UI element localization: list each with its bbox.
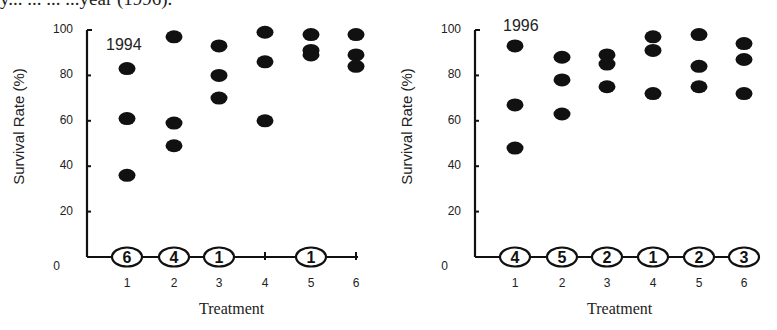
data-point (257, 55, 274, 68)
svg-text:1: 1 (307, 249, 316, 266)
svg-text:3: 3 (740, 249, 749, 266)
data-point (166, 30, 183, 43)
x-tick-label: 1 (505, 276, 525, 290)
zero-count-marker: 3 (729, 248, 759, 267)
zero-count-marker: 2 (684, 248, 714, 267)
y-tick-label: 60 (43, 113, 73, 127)
data-point (554, 73, 571, 86)
data-point (645, 30, 662, 43)
svg-text:5: 5 (558, 249, 567, 266)
data-point (166, 117, 183, 130)
data-point (645, 87, 662, 100)
y-tick-label: 100 (43, 22, 73, 36)
chart-year-title: 1996 (503, 17, 539, 35)
data-point (691, 60, 708, 73)
zero-count-marker: 6 (112, 248, 142, 267)
data-point (507, 39, 524, 52)
x-tick-label: 4 (255, 276, 275, 290)
data-point (691, 28, 708, 41)
svg-text:1: 1 (215, 249, 224, 266)
y-tick-label: 20 (431, 204, 461, 218)
zero-count-marker: 1 (638, 248, 668, 267)
data-point (507, 98, 524, 111)
y-tick-label: 100 (431, 22, 461, 36)
y-tick-label: 0 (30, 259, 60, 273)
y-tick-label: 80 (431, 67, 461, 81)
x-tick-label: 5 (689, 276, 709, 290)
data-point (348, 60, 365, 73)
svg-text:1: 1 (649, 249, 658, 266)
zero-count-marker: 4 (159, 248, 189, 267)
data-point (211, 39, 228, 52)
data-point (303, 28, 320, 41)
y-tick-label: 20 (43, 204, 73, 218)
data-point (736, 37, 753, 50)
data-point (119, 112, 136, 125)
zero-count-marker: 4 (500, 248, 530, 267)
zero-count-marker: 1 (296, 248, 326, 267)
zero-count-marker: 5 (547, 248, 577, 267)
x-tick-label: 3 (209, 276, 229, 290)
data-point (211, 69, 228, 82)
chart-year-title: 1994 (106, 36, 142, 54)
svg-text:6: 6 (123, 249, 132, 266)
chart-1994: 6411020406080100123456Survival Rate (%)T… (0, 0, 388, 330)
data-point (211, 92, 228, 105)
data-point (119, 62, 136, 75)
x-tick-label: 6 (346, 276, 366, 290)
data-point (119, 169, 136, 182)
data-point (554, 51, 571, 64)
x-tick-label: 6 (734, 276, 754, 290)
y-axis-label: Survival Rate (%) (10, 57, 27, 197)
x-tick-label: 4 (643, 276, 663, 290)
data-point (166, 139, 183, 152)
y-tick-label: 80 (43, 67, 73, 81)
svg-text:4: 4 (170, 249, 179, 266)
data-point (691, 80, 708, 93)
x-tick-label: 5 (301, 276, 321, 290)
zero-count-marker: 1 (204, 248, 234, 267)
x-tick-label: 3 (597, 276, 617, 290)
data-point (507, 142, 524, 155)
y-tick-label: 40 (431, 158, 461, 172)
x-tick-label: 2 (552, 276, 572, 290)
svg-text:2: 2 (695, 249, 704, 266)
data-point (348, 28, 365, 41)
y-tick-label: 40 (43, 158, 73, 172)
data-point (348, 48, 365, 61)
data-point (736, 87, 753, 100)
data-point (303, 48, 320, 61)
y-axis-label: Survival Rate (%) (398, 57, 415, 197)
data-point (736, 53, 753, 66)
y-tick-label: 60 (431, 113, 461, 127)
data-point (645, 44, 662, 57)
x-axis-label: Treatment (199, 300, 264, 318)
data-point (257, 114, 274, 127)
svg-text:4: 4 (511, 249, 520, 266)
x-axis-label: Treatment (587, 300, 652, 318)
data-point (599, 58, 616, 71)
svg-text:2: 2 (603, 249, 612, 266)
data-point (257, 26, 274, 39)
chart-1996: 452123020406080100123456Survival Rate (%… (388, 0, 776, 330)
data-point (554, 107, 571, 120)
y-tick-label: 0 (418, 259, 448, 273)
data-point (599, 80, 616, 93)
x-tick-label: 2 (164, 276, 184, 290)
zero-count-marker: 2 (592, 248, 622, 267)
x-tick-label: 1 (117, 276, 137, 290)
